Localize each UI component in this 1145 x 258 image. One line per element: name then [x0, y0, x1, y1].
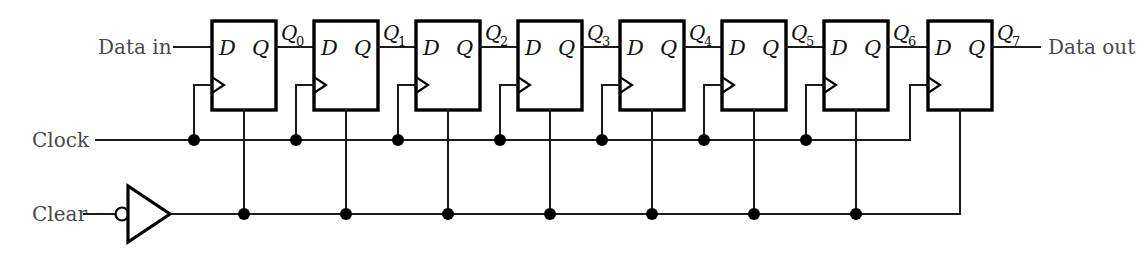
output-label-subscript: 0	[296, 34, 304, 49]
clock-junction-dot	[290, 134, 302, 146]
output-label-subscript: 5	[806, 34, 814, 49]
d-pin-label-5: D	[728, 36, 746, 60]
flipflop-body	[824, 21, 888, 110]
d-pin-label-6: D	[830, 36, 848, 60]
output-label-name: Q	[997, 21, 1013, 45]
output-label-subscript: 4	[704, 34, 712, 49]
output-label-0: Q 0	[281, 21, 304, 49]
output-label-6: Q 6	[893, 21, 916, 49]
d-pin-label-7: D	[934, 36, 952, 60]
clock-branch-wire	[500, 85, 518, 140]
clock-branch-wire	[704, 85, 722, 140]
data-out-label: Data out	[1048, 35, 1135, 59]
clock-junction-dot	[698, 134, 710, 146]
clear-junction-dot	[646, 208, 658, 220]
clear-junction-dot	[544, 208, 556, 220]
output-label-2: Q 2	[485, 21, 508, 49]
flipflop-body	[518, 21, 582, 110]
q-pin-label-7: Q	[968, 36, 985, 60]
output-label-subscript: 3	[602, 34, 610, 49]
flipflop-body	[722, 21, 786, 110]
clock-junction-dot	[494, 134, 506, 146]
q-pin-label-1: Q	[354, 36, 371, 60]
output-label-name: Q	[587, 21, 603, 45]
output-label-name: Q	[383, 21, 399, 45]
flipflop-body	[928, 21, 992, 110]
clock-branch-wire	[806, 85, 824, 140]
output-label-name: Q	[485, 21, 501, 45]
q-pin-label-5: Q	[762, 36, 779, 60]
clear-label: Clear	[32, 202, 87, 226]
clock-junction-dot	[392, 134, 404, 146]
clock-branch-wire	[194, 85, 212, 140]
flipflop-body	[212, 21, 276, 110]
output-label-name: Q	[893, 21, 909, 45]
output-label-3: Q 3	[587, 21, 610, 49]
clear-junction-dot	[748, 208, 760, 220]
clear-junction-dot	[442, 208, 454, 220]
clock-branch-wire	[602, 85, 620, 140]
output-label-1: Q 1	[383, 21, 406, 49]
clear-junction-dot	[850, 208, 862, 220]
output-label-name: Q	[689, 21, 705, 45]
output-label-subscript: 1	[398, 34, 406, 49]
flipflop-body	[416, 21, 480, 110]
output-label-7: Q 7	[997, 21, 1020, 49]
output-label-subscript: 6	[908, 34, 916, 49]
clock-branch-wire	[398, 85, 416, 140]
output-label-5: Q 5	[791, 21, 814, 49]
output-label-subscript: 7	[1012, 34, 1020, 49]
clock-junction-dot	[596, 134, 608, 146]
output-label-subscript: 2	[500, 34, 508, 49]
clock-branch-wire	[296, 85, 314, 140]
d-pin-label-2: D	[422, 36, 440, 60]
d-pin-label-0: D	[218, 36, 236, 60]
q-pin-label-2: Q	[456, 36, 473, 60]
d-pin-label-1: D	[320, 36, 338, 60]
clock-junction-dot	[188, 134, 200, 146]
q-pin-label-3: Q	[558, 36, 575, 60]
clear-junction-dot	[340, 208, 352, 220]
clear-junction-dot	[238, 208, 250, 220]
clock-branch-wire	[910, 85, 928, 140]
d-pin-label-4: D	[626, 36, 644, 60]
flipflop-body	[620, 21, 684, 110]
shift-register-diagram: Data in Clock Clear Data out D Q D Q D Q…	[0, 0, 1145, 258]
inverter-gate-icon	[128, 186, 170, 242]
flipflop-body	[314, 21, 378, 110]
q-pin-label-4: Q	[660, 36, 677, 60]
output-label-name: Q	[791, 21, 807, 45]
clock-label: Clock	[32, 128, 90, 152]
output-label-4: Q 4	[689, 21, 712, 49]
circuit-canvas: Data in Clock Clear Data out D Q D Q D Q…	[0, 0, 1145, 258]
data-in-label: Data in	[98, 35, 172, 59]
clock-junction-dot	[800, 134, 812, 146]
q-pin-label-0: Q	[252, 36, 269, 60]
q-pin-label-6: Q	[864, 36, 881, 60]
d-pin-label-3: D	[524, 36, 542, 60]
output-label-name: Q	[281, 21, 297, 45]
